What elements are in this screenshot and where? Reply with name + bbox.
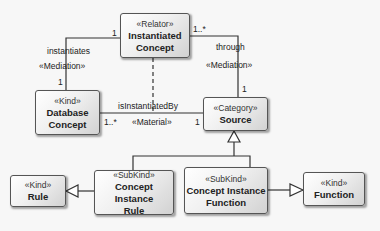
class-concept-instance-rule[interactable]: «SubKind» Concept Instance Rule [94,170,174,215]
class-rule[interactable]: «Kind» Rule [10,175,66,207]
class-name-line: Source [219,114,251,126]
multiplicity-label: 1 [242,84,247,94]
association-stereotype-material: «Material» [132,117,172,127]
stereotype-label: «Relator» [137,18,174,30]
stereotype-label: «Kind» [54,95,80,107]
association-stereotype-mediation: «Mediation» [39,61,85,71]
multiplicity-label: 1..* [104,117,117,127]
association-stereotype-mediation: «Mediation» [206,60,252,70]
generalization-arrowhead-source [228,131,240,142]
class-name-line: Rule [28,191,49,203]
class-instantiated-concept[interactable]: «Relator» Instantiated Concept [120,13,190,58]
stereotype-label: «Kind» [321,177,347,189]
class-name-line: Concept [49,119,87,131]
stereotype-label: «SubKind» [113,169,155,181]
multiplicity-label: 1 [58,77,63,87]
class-name-line: Function [314,189,354,201]
multiplicity-label: 1..* [193,24,206,34]
generalization-arrowhead-function [290,184,303,196]
multiplicity-label: 1 [195,117,200,127]
class-name-line: Function [206,197,246,209]
stereotype-label: «Kind» [25,179,51,191]
generalization-arrowhead-rule [66,185,78,197]
stereotype-label: «SubKind» [205,173,247,185]
stereotype-label: «Category» [214,102,258,114]
association-name-instantiates: instantiates [47,46,90,56]
class-name-line: Concept Instance [186,185,265,197]
multiplicity-label: 1 [112,28,117,38]
class-name-line: Rule [124,205,145,217]
class-function[interactable]: «Kind» Function [303,172,365,206]
class-name-line: Concept [136,42,174,54]
association-name-through: through [216,42,245,52]
class-source[interactable]: «Category» Source [203,97,268,131]
class-name-line: Instantiated [128,30,181,42]
class-name-line: Concept Instance [95,181,173,205]
class-concept-instance-function[interactable]: «SubKind» Concept Instance Function [184,167,268,214]
class-database-concept[interactable]: «Kind» Database Concept [35,90,100,135]
association-name-is-instantiated-by: isInstantiatedBy [118,101,178,111]
class-name-line: Database [46,107,88,119]
